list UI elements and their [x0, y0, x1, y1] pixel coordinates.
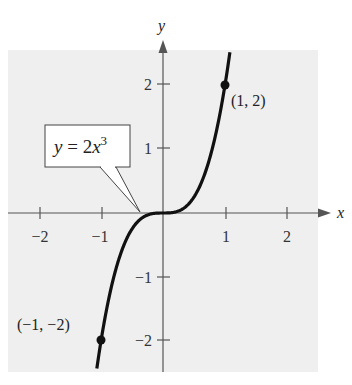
svg-text:2: 2 — [283, 228, 291, 245]
point-label-neg1-neg2: (−1, −2) — [17, 316, 70, 334]
svg-text:−1: −1 — [91, 228, 108, 245]
point-neg1-neg2 — [97, 336, 106, 345]
x-axis-arrow-icon — [318, 209, 331, 218]
y-axis-arrow-icon — [159, 40, 168, 53]
svg-text:2: 2 — [144, 76, 152, 93]
point-1-2 — [221, 81, 230, 90]
svg-text:−2: −2 — [31, 228, 48, 245]
x-axis-label: x — [336, 204, 344, 221]
svg-text:−2: −2 — [135, 332, 152, 349]
svg-text:−1: −1 — [135, 269, 152, 286]
y-axis-label: y — [156, 17, 166, 35]
svg-text:1: 1 — [144, 140, 152, 157]
point-label-1-2: (1, 2) — [231, 92, 266, 110]
svg-text:1: 1 — [222, 228, 230, 245]
cubic-function-graph: x y −2 −1 1 2 2 1 −1 −2 (1, 2) (−1, −2) — [0, 0, 352, 385]
equation-label: y = 2x3 — [52, 133, 107, 157]
